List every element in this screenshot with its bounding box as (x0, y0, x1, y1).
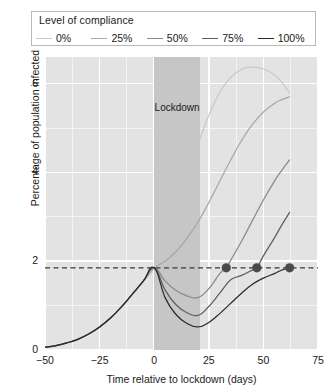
x-tick-label: −25 (80, 354, 120, 366)
legend-item-0pct[interactable]: 0% (36, 32, 91, 44)
x-tick-label: 0 (134, 354, 174, 366)
plot-area: Lockdown (45, 57, 318, 350)
y-tick-label: 4 (2, 165, 38, 177)
legend-item-label: 0% (56, 32, 71, 44)
legend: Level of compliance 0%25%50%75%100% (31, 11, 316, 46)
y-axis-title: Percentage of population infected (29, 18, 41, 238)
legend-item-label: 75% (222, 32, 243, 44)
legend-item-25pct[interactable]: 25% (91, 32, 146, 44)
legend-item-label: 25% (111, 32, 132, 44)
legend-line-swatch-icon (202, 38, 218, 39)
legend-line-swatch-icon (147, 38, 163, 39)
legend-item-50pct[interactable]: 50% (147, 32, 202, 44)
x-tick-label: 25 (189, 354, 229, 366)
x-tick-label: 50 (243, 354, 283, 366)
legend-item-label: 100% (278, 32, 305, 44)
series-line-50pct (45, 160, 290, 347)
y-tick-label: 2 (2, 254, 38, 266)
series-line-0pct (45, 67, 290, 347)
series-line-100pct (45, 267, 290, 347)
legend-line-swatch-icon (91, 38, 107, 39)
series-lines (45, 57, 318, 350)
legend-line-swatch-icon (258, 38, 274, 39)
x-axis-title: Time relative to lockdown (days) (45, 373, 318, 385)
x-tick-label: 75 (298, 354, 333, 366)
marker-return-to-baseline-100[interactable] (285, 263, 294, 272)
series-line-25pct (45, 97, 290, 347)
legend-items: 0%25%50%75%100% (36, 31, 313, 45)
legend-item-75pct[interactable]: 75% (202, 32, 257, 44)
series-line-75pct (45, 212, 290, 347)
legend-item-100pct[interactable]: 100% (258, 32, 313, 44)
legend-item-label: 50% (167, 32, 188, 44)
y-tick-label: 6 (2, 77, 38, 89)
marker-return-to-baseline-75[interactable] (252, 263, 261, 272)
chart-figure: Level of compliance 0%25%50%75%100% Perc… (0, 0, 333, 392)
marker-return-to-baseline-50[interactable] (222, 263, 231, 272)
x-tick-label: −50 (25, 354, 65, 366)
legend-title: Level of compliance (39, 14, 134, 26)
